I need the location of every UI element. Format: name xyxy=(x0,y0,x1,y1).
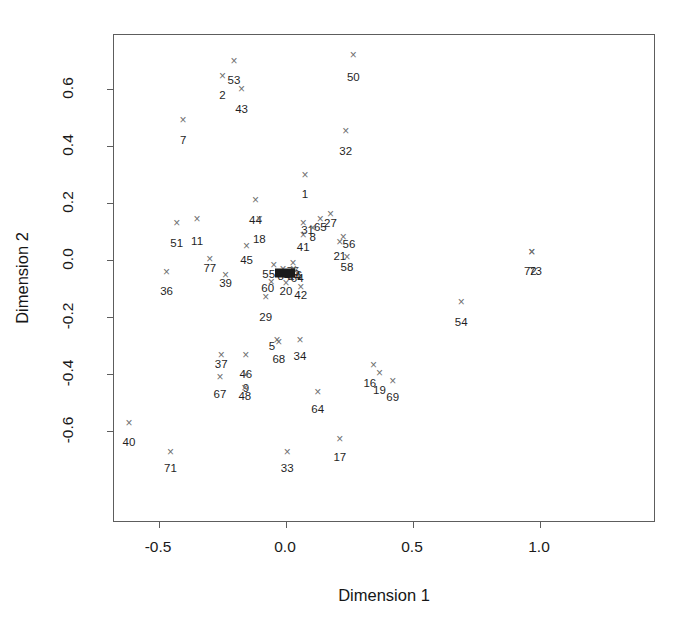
data-point-marker: × xyxy=(336,236,343,248)
x-tick-label: 0.0 xyxy=(274,538,296,556)
data-point-marker: × xyxy=(262,291,269,303)
data-point-marker: × xyxy=(126,417,133,429)
y-tick xyxy=(107,374,114,375)
data-point-marker: × xyxy=(242,369,249,381)
data-point-marker: × xyxy=(389,375,396,387)
data-point-marker: × xyxy=(180,114,187,126)
data-point-marker: × xyxy=(284,446,291,458)
data-point-marker: × xyxy=(296,334,303,346)
data-point-marker: × xyxy=(458,296,465,308)
data-point-label: 39 xyxy=(219,278,232,290)
data-point-label: 1 xyxy=(302,189,308,201)
data-point-label: 20 xyxy=(280,286,293,298)
data-point-label: 41 xyxy=(297,242,310,254)
data-point-label: 64 xyxy=(311,404,324,416)
data-point-label: 67 xyxy=(214,389,227,401)
data-point-marker: × xyxy=(238,83,245,95)
data-point-label: 54 xyxy=(455,317,468,329)
data-point-marker: × xyxy=(275,336,282,348)
data-point-marker: × xyxy=(314,386,321,398)
plot-frame: ×53×50×2×43×32×7×1×44×27×65×51×11×18×31×… xyxy=(113,34,655,522)
data-point-marker: × xyxy=(350,49,357,61)
y-tick-label: 0.6 xyxy=(59,77,77,99)
y-tick xyxy=(107,89,114,90)
data-point-label: 68 xyxy=(272,354,285,366)
data-point-label: 43 xyxy=(235,104,248,116)
data-point-label: 34 xyxy=(294,351,307,363)
x-tick xyxy=(286,521,287,528)
data-point-label: 8 xyxy=(309,232,315,244)
data-point-label: 36 xyxy=(160,286,173,298)
data-point-marker: × xyxy=(230,55,237,67)
data-point-label: 69 xyxy=(386,392,399,404)
x-axis-title: Dimension 1 xyxy=(338,586,430,605)
scatter-plot-figure: Dimension 2 Dimension 1 ×53×50×2×43×32×7… xyxy=(0,0,688,635)
data-point-label: 77 xyxy=(203,263,216,275)
y-tick xyxy=(107,203,114,204)
y-tick xyxy=(107,317,114,318)
x-tick xyxy=(159,521,160,528)
data-point-label: 2 xyxy=(219,90,225,102)
x-tick-label: -0.5 xyxy=(145,538,172,556)
data-point-label: 40 xyxy=(123,437,136,449)
data-point-marker: × xyxy=(243,240,250,252)
y-axis-title: Dimension 2 xyxy=(13,232,32,324)
data-point-marker: × xyxy=(376,367,383,379)
x-tick-label: 0.5 xyxy=(401,538,423,556)
data-point-label: 51 xyxy=(170,238,183,250)
data-point-label: 11 xyxy=(191,236,203,248)
x-tick-label: 1.0 xyxy=(528,538,550,556)
data-point-marker: × xyxy=(219,70,226,82)
data-point-label: 58 xyxy=(341,262,354,274)
data-point-label: 50 xyxy=(347,72,360,84)
x-tick xyxy=(413,521,414,528)
x-tick xyxy=(540,521,541,528)
data-point-marker: × xyxy=(167,446,174,458)
data-point-label: 19 xyxy=(373,385,386,397)
y-tick-label: 0.2 xyxy=(59,191,77,213)
data-point-label: 29 xyxy=(259,312,272,324)
y-tick xyxy=(107,431,114,432)
y-tick xyxy=(107,260,114,261)
data-point-marker: × xyxy=(302,169,309,181)
data-point-label: 33 xyxy=(281,463,294,475)
data-point-marker: × xyxy=(336,433,343,445)
data-point-marker: × xyxy=(242,349,249,361)
data-point-label: 18 xyxy=(253,234,266,246)
y-tick-label: 0.0 xyxy=(59,248,77,270)
y-tick xyxy=(107,146,114,147)
data-point-marker: × xyxy=(194,213,201,225)
dense-cluster-block xyxy=(275,269,295,278)
data-point-label: 73 xyxy=(529,266,542,278)
data-point-marker: × xyxy=(173,217,180,229)
y-tick-label: -0.6 xyxy=(59,417,77,444)
data-point-label: 7 xyxy=(180,135,186,147)
data-point-label: 71 xyxy=(164,463,177,475)
data-point-marker: × xyxy=(256,213,263,225)
data-point-label: 5 xyxy=(269,341,275,353)
data-point-marker: × xyxy=(252,194,259,206)
data-point-label: 32 xyxy=(339,146,352,158)
data-point-label: 42 xyxy=(294,290,307,302)
y-tick-label: -0.4 xyxy=(59,360,77,387)
data-point-marker: × xyxy=(216,371,223,383)
data-point-marker: × xyxy=(163,266,170,278)
data-point-marker: × xyxy=(342,125,349,137)
y-tick-label: -0.2 xyxy=(59,303,77,330)
data-point-label: 17 xyxy=(333,452,346,464)
data-point-label: 45 xyxy=(240,255,253,267)
data-point-marker: × xyxy=(528,246,535,258)
data-point-label: 48 xyxy=(238,391,251,403)
data-point-marker: × xyxy=(300,229,307,241)
y-tick-label: 0.4 xyxy=(59,134,77,156)
